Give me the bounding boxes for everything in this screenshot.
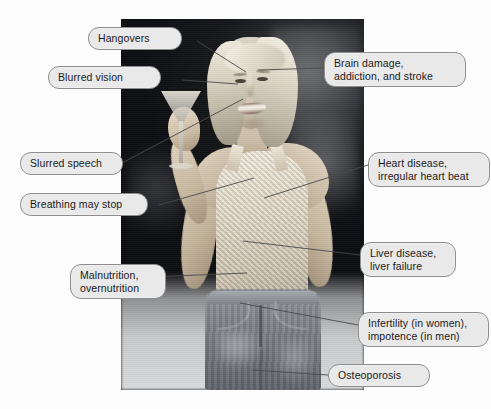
callout-heart-disease[interactable]: Heart disease, irregular heart beat [368,152,490,187]
callout-blurred-vision[interactable]: Blurred vision [48,66,161,89]
callout-osteoporosis[interactable]: Osteoporosis [328,364,430,387]
eye [235,79,246,83]
jeans-waistband [207,291,319,304]
callout-liver-disease[interactable]: Liver disease, liver failure [360,242,456,277]
glass-foot [169,163,193,169]
callout-slurred-speech[interactable]: Slurred speech [20,152,123,175]
eye [257,77,268,81]
chin-shadow [235,119,269,133]
callout-brain-damage[interactable]: Brain damage, addiction, and stroke [324,52,466,87]
callout-hangovers[interactable]: Hangovers [88,27,182,50]
hair [225,43,285,73]
glass-bowl [161,91,201,125]
glass-stem [179,121,183,165]
denim-highlight [217,331,265,371]
alcohol-effects-diagram: Hangovers Blurred vision Brain damage, a… [0,0,491,409]
callout-breathing-may-stop[interactable]: Breathing may stop [20,193,148,216]
sleeveless-top [216,151,308,309]
denim-highlight [271,339,315,385]
callout-infertility[interactable]: Infertility (in women), impotence (in me… [358,312,489,347]
cocktail-glass [161,91,201,175]
nose [247,85,253,97]
callout-malnutrition[interactable]: Malnutrition, overnutrition [70,264,166,299]
necklace [239,151,265,178]
